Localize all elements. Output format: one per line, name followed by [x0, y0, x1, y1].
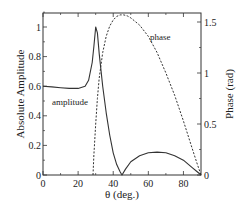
amplitude-annotation: amplitude — [52, 97, 88, 107]
x-axis-label: θ (deg.) — [105, 188, 139, 201]
phase-line — [93, 15, 201, 175]
phase-annotation: phase — [150, 32, 171, 42]
y2-axis-label: Phase (rad) — [223, 69, 236, 119]
plot-frame — [43, 13, 201, 175]
y-tick-label: 1 — [36, 22, 41, 33]
plot-area — [43, 13, 201, 175]
x-tick-label: 60 — [143, 178, 153, 189]
y-tick-label: 0.4 — [29, 110, 42, 121]
y2-tick-label: 0.5 — [204, 119, 217, 130]
y2-tick-label: 1 — [204, 68, 209, 79]
series-layer — [43, 15, 201, 175]
dual-axis-line-chart: 02040608000.20.40.60.8100.511.5 Absolute… — [0, 0, 244, 210]
y-tick-label: 0.8 — [29, 51, 42, 62]
y2-tick-label: 0 — [204, 170, 209, 181]
y-tick-label: 0.2 — [29, 140, 42, 151]
y-axis-label: Absolute Amplitude — [14, 49, 26, 138]
y2-tick-label: 1.5 — [204, 17, 217, 28]
x-tick-label: 80 — [178, 178, 188, 189]
x-tick-label: 0 — [41, 178, 46, 189]
y-tick-label: 0 — [36, 170, 41, 181]
y-tick-label: 0.6 — [29, 81, 42, 92]
x-tick-label: 20 — [73, 178, 83, 189]
